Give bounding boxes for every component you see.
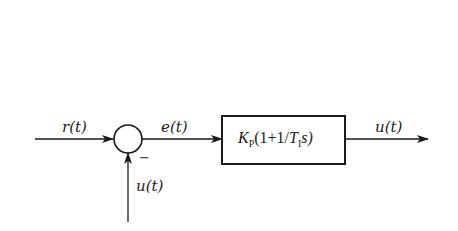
output-signal-label: u(t) (375, 118, 402, 136)
error-signal-label: e(t) (161, 118, 188, 136)
controller-transfer-function: KP(1+1/TIs) (238, 129, 313, 149)
negative-sign: − (139, 150, 150, 165)
summing-junction (114, 125, 142, 153)
gain-symbol: K (238, 129, 249, 146)
expr-close: s) (301, 129, 313, 146)
block-diagram: r(t) e(t) u(t) u(t) − KP(1+1/TIs) (0, 0, 458, 231)
diagram-graphics (0, 0, 458, 231)
time-constant-symbol: T (289, 129, 298, 146)
reference-signal-label: r(t) (62, 118, 87, 136)
feedback-signal-label: u(t) (136, 177, 163, 195)
expr-open: (1+1/ (254, 129, 289, 146)
